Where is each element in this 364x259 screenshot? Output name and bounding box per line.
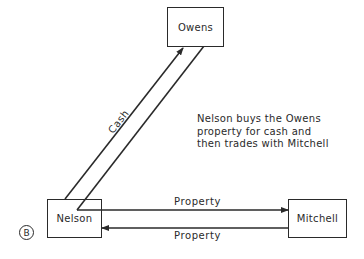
node-mitchell: Mitchell: [288, 199, 347, 238]
node-mitchell-label: Mitchell: [297, 213, 338, 224]
note-line-1: Nelson buys the Owens: [197, 113, 329, 126]
owens-property-line: [77, 46, 204, 210]
edge-label-property-bottom: Property: [174, 230, 221, 241]
node-nelson-label: Nelson: [57, 213, 93, 224]
panel-label-text: B: [23, 228, 29, 238]
edge-label-property-top: Property: [174, 196, 221, 207]
cash-arrow: [65, 48, 183, 199]
node-nelson: Nelson: [47, 199, 102, 238]
note-line-3: then trades with Mitchell: [197, 138, 329, 151]
node-owens: Owens: [167, 7, 224, 47]
panel-label-badge: B: [19, 225, 34, 240]
node-owens-label: Owens: [178, 22, 213, 33]
diagram-note: Nelson buys the Owens property for cash …: [197, 113, 329, 151]
note-line-2: property for cash and: [197, 126, 329, 139]
